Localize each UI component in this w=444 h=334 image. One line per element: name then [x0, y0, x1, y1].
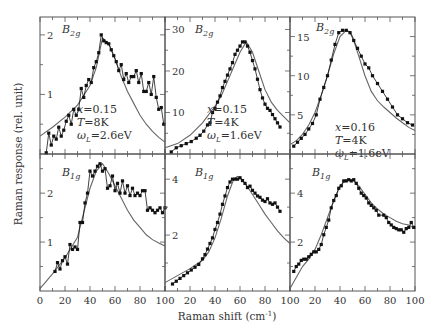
data-point [251, 59, 254, 62]
x-tick-label: 60 [234, 295, 247, 306]
data-point [208, 242, 211, 245]
data-point [132, 75, 135, 78]
data-point [320, 243, 323, 246]
data-point [62, 129, 65, 132]
y-tick-label: 4 [297, 188, 303, 199]
data-point [175, 280, 178, 283]
data-point [377, 214, 380, 217]
data-point [95, 60, 98, 63]
data-point [330, 58, 333, 61]
panel-top-right: 51015B2gx=0.16T=4KωL=1.6eV [290, 17, 415, 162]
data-point [410, 221, 413, 224]
data-point [111, 174, 114, 177]
data-point [367, 66, 370, 69]
data-point [376, 82, 379, 85]
data-point [180, 144, 183, 147]
data-point [221, 86, 224, 89]
data-point [278, 125, 281, 128]
data-point [138, 194, 141, 197]
panel-frame [290, 154, 415, 291]
data-point [90, 81, 93, 84]
data-point [68, 243, 71, 246]
data-point [273, 117, 276, 120]
data-point [357, 187, 360, 190]
data-point [137, 81, 140, 84]
data-point [322, 233, 325, 236]
data-point [335, 194, 338, 197]
data-point [92, 66, 95, 69]
x-axis-title-main: Raman shift (cm [178, 310, 266, 322]
data-point [297, 262, 300, 265]
data-line [294, 180, 414, 272]
raman-response-figure: 12B2gx=0.15T=8KωL=2.6eV102030B2gx=0.15T=… [0, 0, 444, 334]
panel-grid: 12B2gx=0.15T=8KωL=2.6eV102030B2gx=0.15T=… [37, 17, 425, 306]
panel-bottom-right: 2420406080100B1g [290, 154, 425, 306]
data-point [158, 206, 161, 209]
panel-bottom-left: 12020406080100B1g [37, 154, 175, 306]
symmetry-label: B1g [61, 166, 80, 181]
data-point [213, 228, 216, 231]
data-point [185, 142, 188, 145]
data-point [145, 90, 148, 93]
data-point [195, 137, 198, 140]
data-point [276, 206, 279, 209]
data-point [218, 213, 221, 216]
data-point [127, 81, 130, 84]
param-annotation: x=0.15 [77, 103, 117, 116]
data-point [113, 189, 116, 192]
data-point [307, 127, 310, 130]
data-point [110, 48, 113, 51]
data-point [325, 226, 328, 229]
data-point [152, 75, 155, 78]
data-point [341, 29, 344, 32]
data-point [88, 170, 91, 173]
symmetry-label: B2g [61, 23, 80, 38]
data-point [233, 53, 236, 56]
data-point [246, 44, 249, 47]
data-point [226, 74, 229, 77]
data-point [123, 192, 126, 195]
y-tick-label: 2 [47, 188, 53, 199]
x-tick-label: 100 [280, 295, 299, 306]
data-point [198, 134, 201, 137]
data-point [103, 167, 106, 170]
data-point [268, 109, 271, 112]
data-point [292, 145, 295, 148]
data-point [80, 87, 83, 90]
param-annotation: x=0.15 [207, 103, 247, 116]
x-tick-label: 80 [134, 295, 147, 306]
data-point [117, 69, 120, 72]
data-point [131, 187, 134, 190]
data-point [322, 86, 325, 89]
data-point [381, 90, 384, 93]
data-point [97, 51, 100, 54]
data-point [238, 176, 241, 179]
x-tick-label: 80 [384, 295, 397, 306]
data-point [63, 255, 66, 258]
x-tick-label: 40 [209, 295, 222, 306]
y-tick-label: 2 [297, 237, 303, 248]
data-point [365, 196, 368, 199]
data-point [253, 67, 256, 70]
panel-bottom-middle: 2420406080100B1g [165, 154, 300, 306]
data-point [276, 121, 279, 124]
data-point [327, 218, 330, 221]
x-tick-label: 40 [84, 295, 97, 306]
data-point [126, 184, 129, 187]
data-point [190, 140, 193, 143]
data-point [221, 203, 224, 206]
y-tick-label: 15 [297, 32, 310, 43]
x-tick-label: 20 [184, 295, 197, 306]
data-point [407, 226, 410, 229]
data-point [356, 47, 359, 50]
data-point [216, 221, 219, 224]
theory-curve [290, 180, 415, 289]
data-point [401, 117, 404, 120]
data-point [60, 135, 63, 138]
data-point [223, 80, 226, 83]
data-point [243, 182, 246, 185]
data-point [47, 132, 50, 135]
data-point [355, 182, 358, 185]
data-point [147, 81, 150, 84]
data-point [57, 126, 60, 129]
